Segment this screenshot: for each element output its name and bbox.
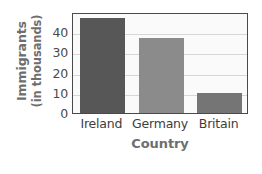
bar-germany: [139, 38, 184, 113]
x-tick-label-germany: Germany: [132, 116, 188, 132]
x-tick-label-ireland: Ireland: [80, 116, 122, 132]
bars-group: [73, 14, 247, 113]
plot-area: [72, 13, 248, 114]
bar-chart-figure: Immigrants (in thousands) 010203040 Irel…: [0, 0, 262, 174]
x-axis-tick-labels: IrelandGermanyBritain: [72, 116, 248, 134]
bar-britain: [197, 93, 242, 113]
y-axis-title-line-2: (in thousands): [30, 15, 44, 108]
y-axis-title-line-1: Immigrants: [15, 21, 29, 101]
bar-ireland: [80, 18, 125, 113]
y-tick-label-10: 10: [52, 88, 68, 101]
y-axis-tick-labels: 010203040: [44, 14, 68, 114]
x-axis-title: Country: [72, 136, 248, 152]
y-tick-label-30: 30: [52, 47, 68, 60]
x-tick-label-britain: Britain: [199, 116, 239, 132]
y-tick-label-40: 40: [52, 27, 68, 40]
y-tick-label-20: 20: [52, 67, 68, 80]
y-tick-label-0: 0: [60, 108, 68, 121]
